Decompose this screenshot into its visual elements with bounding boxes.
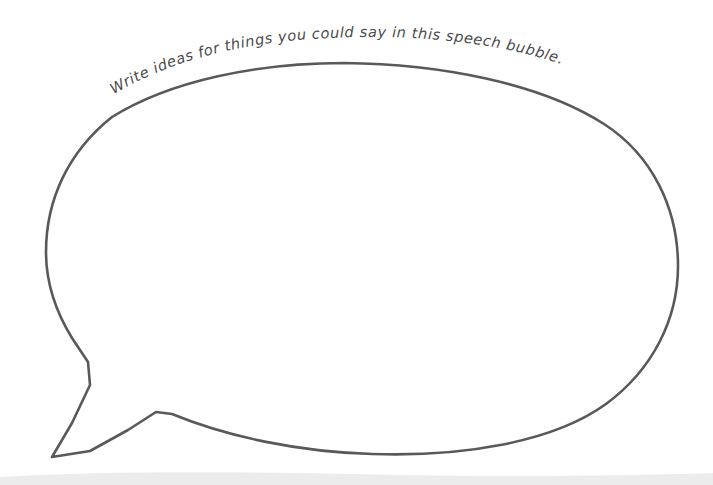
page-bottom-edge: [0, 472, 713, 485]
worksheet-page: Write ideas for things you could say in …: [0, 0, 713, 485]
speech-bubble[interactable]: [46, 63, 678, 457]
worksheet-canvas: Write ideas for things you could say in …: [0, 0, 713, 485]
